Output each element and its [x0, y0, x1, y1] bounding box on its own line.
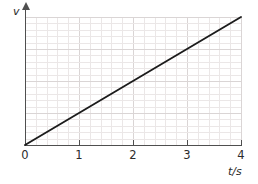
gridline-horizontal	[25, 23, 241, 24]
y-axis-line	[25, 9, 26, 145]
gridline-horizontal	[25, 75, 241, 76]
x-tick-label: 0	[15, 150, 35, 162]
x-tick-label: 4	[231, 150, 251, 162]
x-tick-label: 2	[123, 150, 143, 162]
gridline-horizontal	[25, 107, 241, 108]
x-tick	[133, 140, 134, 145]
x-tick	[241, 140, 242, 145]
gridline-horizontal	[25, 55, 241, 56]
gridline-horizontal	[25, 30, 241, 31]
gridline-horizontal	[25, 132, 241, 133]
gridline-horizontal	[25, 49, 241, 50]
gridline-horizontal	[25, 94, 241, 95]
gridline-vertical	[241, 17, 242, 145]
x-tick	[79, 140, 80, 145]
x-axis-line	[25, 145, 242, 146]
x-tick-label: 1	[69, 150, 89, 162]
plot-area	[25, 17, 241, 145]
gridline-horizontal	[25, 113, 241, 114]
gridline-horizontal	[25, 43, 241, 44]
gridline-horizontal	[25, 36, 241, 37]
x-tick	[25, 140, 26, 145]
gridline-horizontal	[25, 87, 241, 88]
velocity-time-chart: 01234 v t/s	[0, 0, 258, 184]
x-tick	[187, 140, 188, 145]
gridline-horizontal	[25, 62, 241, 63]
x-tick-label: 3	[177, 150, 197, 162]
y-axis-arrow-icon	[22, 2, 30, 10]
gridline-horizontal	[25, 100, 241, 101]
x-axis-label: t/s	[228, 166, 242, 177]
gridline-horizontal	[25, 119, 241, 120]
y-axis-label: v	[13, 6, 20, 17]
gridline-horizontal	[25, 17, 241, 18]
gridline-horizontal	[25, 81, 241, 82]
gridline-horizontal	[25, 68, 241, 69]
gridline-horizontal	[25, 126, 241, 127]
grid	[25, 17, 241, 145]
